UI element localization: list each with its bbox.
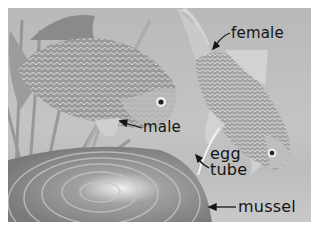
mussel-shell	[8, 147, 212, 222]
label-male: male	[143, 120, 181, 135]
label-tube: tube	[210, 162, 247, 177]
label-egg: egg	[210, 146, 241, 161]
label-female: female	[231, 26, 284, 41]
label-mussel: mussel	[238, 199, 296, 214]
